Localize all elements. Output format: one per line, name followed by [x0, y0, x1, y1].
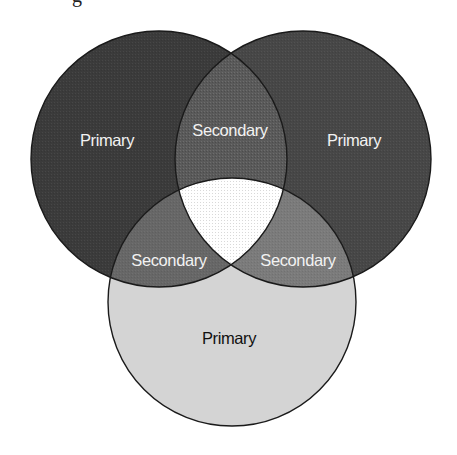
label-secondary-left: Secondary	[131, 251, 207, 269]
label-primary-bottom: Primary	[202, 329, 257, 347]
label-secondary-top: Secondary	[192, 121, 268, 139]
title-fragment: g	[72, 0, 82, 7]
label-primary-top-right: Primary	[327, 131, 382, 149]
label-secondary-right: Secondary	[260, 251, 336, 269]
texture-overlay	[175, 31, 431, 287]
venn-diagram: g Primary Primary Primary Secondary Seco…	[0, 0, 457, 455]
label-primary-top-left: Primary	[80, 131, 135, 149]
